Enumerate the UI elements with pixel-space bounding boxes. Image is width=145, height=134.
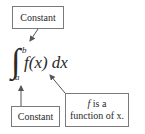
integrand: f(x) dx — [24, 53, 68, 73]
upper-constant-label: Constant — [20, 12, 56, 23]
arrow-right-to-integrand — [50, 75, 65, 93]
function-label-line2: function of x. — [66, 110, 128, 122]
arrow-top-to-upper-limit — [30, 29, 38, 41]
function-label-line1: f is a — [66, 98, 128, 110]
label-box-upper-constant: Constant — [12, 6, 64, 29]
label-box-lower-constant: Constant — [11, 106, 60, 127]
label-box-function: f is a function of x. — [65, 93, 129, 127]
lower-constant-label: Constant — [18, 111, 54, 122]
lower-limit: a — [15, 72, 20, 82]
